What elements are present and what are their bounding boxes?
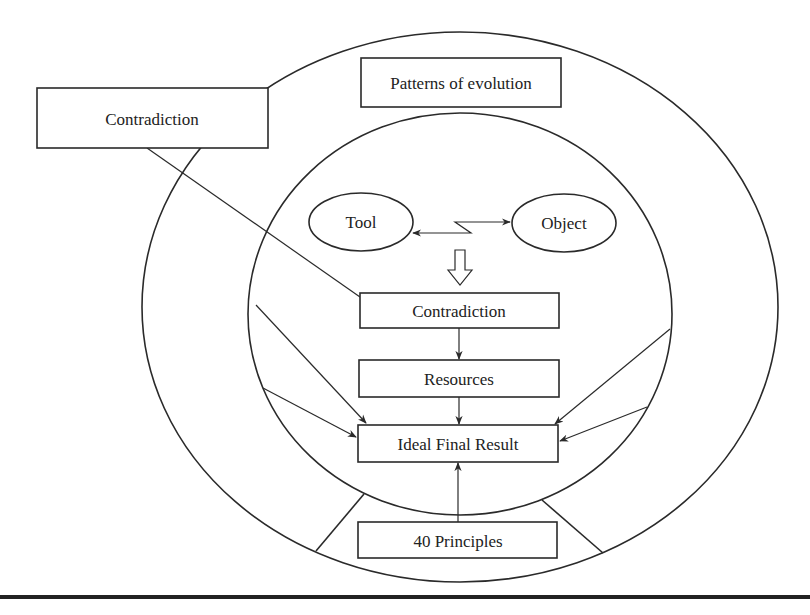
outer-contradiction-box: Contradiction	[37, 88, 268, 148]
arrow-right-lower-to-ifr	[560, 407, 647, 441]
tool-node: Tool	[309, 193, 413, 251]
ideal-final-result-label: Ideal Final Result	[398, 435, 519, 454]
contradiction-label: Contradiction	[412, 302, 506, 321]
contradiction-box: Contradiction	[360, 293, 559, 328]
hollow-down-arrow-icon	[448, 250, 472, 285]
patterns-of-evolution-box: Patterns of evolution	[361, 58, 561, 107]
ring-divider-left	[316, 494, 364, 551]
patterns-of-evolution-label: Patterns of evolution	[390, 74, 532, 93]
arrow-left-lower-to-ifr	[263, 388, 356, 437]
arrow-left-upper-to-ifr	[256, 305, 366, 423]
triz-diagram: Contradiction Patterns of evolution Tool…	[0, 0, 810, 615]
outer-contradiction-label: Contradiction	[105, 110, 199, 129]
resources-box: Resources	[359, 360, 559, 397]
interaction-lightning-arrow	[413, 222, 510, 233]
bottom-rule	[0, 595, 810, 599]
arrow-right-upper-to-ifr	[555, 329, 670, 424]
object-node: Object	[512, 194, 616, 252]
tool-label: Tool	[346, 213, 377, 232]
resources-label: Resources	[424, 370, 494, 389]
principles-box: 40 Principles	[358, 522, 557, 558]
ideal-final-result-box: Ideal Final Result	[358, 425, 558, 462]
object-label: Object	[541, 214, 587, 233]
principles-label: 40 Principles	[413, 532, 502, 551]
